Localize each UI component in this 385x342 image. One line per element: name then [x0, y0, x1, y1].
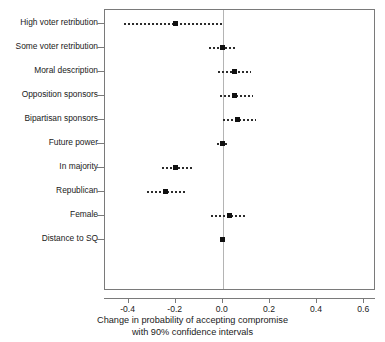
x-axis-caption: Change in probability of accepting compr…: [0, 315, 385, 338]
y-axis-tick: [97, 143, 104, 144]
y-axis-tick: [97, 23, 104, 24]
zero-reference-line: [223, 10, 224, 289]
y-axis-tick: [97, 71, 104, 72]
x-axis-tick: [175, 298, 176, 303]
x-axis-tick: [222, 298, 223, 303]
x-axis-line: [104, 298, 375, 299]
y-axis-label: Future power: [49, 138, 98, 147]
estimate-point: [173, 165, 178, 170]
x-axis-caption-line2: with 90% confidence intervals: [0, 327, 385, 339]
y-axis-label: High voter retribution: [20, 18, 98, 27]
estimate-point: [173, 21, 178, 26]
y-axis-tick: [97, 215, 104, 216]
y-axis-label: Some voter retribution: [16, 42, 98, 51]
y-axis-label: Bipartisan sponsors: [24, 114, 98, 123]
y-axis-label: Distance to SQ: [42, 234, 98, 243]
y-axis-tick: [97, 47, 104, 48]
estimate-point: [220, 141, 225, 146]
estimate-point: [220, 45, 225, 50]
x-axis-tick: [269, 298, 270, 303]
x-axis-tick-label: 0.0: [202, 304, 242, 314]
x-axis-tick-label: -0.4: [108, 304, 148, 314]
y-axis-label: Female: [70, 210, 98, 219]
estimate-point: [220, 237, 225, 242]
x-axis-tick-label: -0.2: [155, 304, 195, 314]
y-axis-label: Republican: [56, 186, 98, 195]
y-axis-tick: [97, 239, 104, 240]
estimate-point: [163, 189, 168, 194]
x-axis-tick-label: 0.2: [249, 304, 289, 314]
estimate-point: [227, 213, 232, 218]
y-axis-tick: [97, 95, 104, 96]
estimate-point: [235, 117, 240, 122]
estimate-point: [232, 69, 237, 74]
x-axis-tick: [363, 298, 364, 303]
x-axis-tick-label: 0.4: [296, 304, 336, 314]
estimate-point: [232, 93, 237, 98]
x-axis-tick-label: 0.6: [343, 304, 383, 314]
y-axis-tick: [97, 167, 104, 168]
plot-area: [104, 9, 375, 290]
confidence-interval-bar: [220, 95, 253, 97]
y-axis-label: Opposition sponsors: [22, 90, 98, 99]
coefficient-plot: High voter retributionSome voter retribu…: [0, 0, 385, 342]
x-axis-tick: [316, 298, 317, 303]
y-axis-label: In majority: [59, 162, 98, 171]
y-axis-tick: [97, 119, 104, 120]
x-axis-tick: [128, 298, 129, 303]
y-axis-tick: [97, 191, 104, 192]
y-axis-label: Moral description: [34, 66, 98, 75]
x-axis-caption-line1: Change in probability of accepting compr…: [0, 315, 385, 327]
